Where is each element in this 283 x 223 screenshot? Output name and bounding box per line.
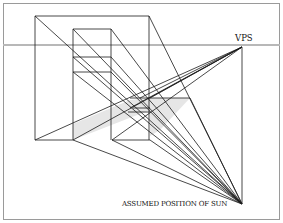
shadow-perspective-diagram: VPS ASSUMED POSITION OF SUN (0, 0, 283, 223)
sun-label: ASSUMED POSITION OF SUN (121, 200, 227, 208)
vps-label: VPS (234, 33, 253, 43)
